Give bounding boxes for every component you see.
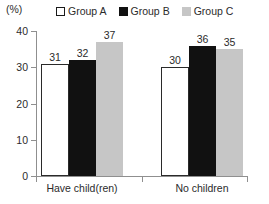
plot-area: 40 30 20 10 0 31 32 37 Have child(ren) 3… bbox=[0, 0, 269, 204]
y-tick-label-30: 30 bbox=[2, 62, 28, 73]
y-tick-label-20: 20 bbox=[2, 99, 28, 110]
bar-group1-series-c[interactable] bbox=[96, 42, 123, 176]
bar-group2-series-b[interactable] bbox=[189, 46, 216, 176]
y-tick-10 bbox=[31, 140, 36, 141]
bar-value-group1-series-a: 31 bbox=[41, 52, 69, 63]
bar-group1-series-a[interactable] bbox=[41, 64, 69, 176]
bar-group2-series-a[interactable] bbox=[161, 67, 189, 176]
x-axis-group-label-2: No children bbox=[157, 183, 247, 194]
bar-value-group2-series-a: 30 bbox=[161, 55, 189, 66]
y-tick-label-40: 40 bbox=[2, 26, 28, 37]
bar-value-group2-series-c: 35 bbox=[216, 37, 243, 48]
y-tick-label-10: 10 bbox=[2, 135, 28, 146]
bar-value-group1-series-c: 37 bbox=[96, 30, 123, 41]
y-tick-20 bbox=[31, 104, 36, 105]
y-tick-30 bbox=[31, 67, 36, 68]
clipped-caption-sliver bbox=[6, 199, 156, 204]
bar-group2-series-c[interactable] bbox=[216, 49, 243, 176]
bar-value-group1-series-b: 32 bbox=[69, 48, 96, 59]
bar-value-group2-series-b: 36 bbox=[189, 34, 216, 45]
y-axis-line bbox=[36, 31, 37, 177]
x-tick-group-separator bbox=[142, 177, 143, 182]
y-tick-label-0: 0 bbox=[2, 171, 28, 182]
bar-group1-series-b[interactable] bbox=[69, 60, 96, 176]
x-tick-right-end bbox=[247, 177, 248, 182]
bar-chart-figure: (%) Group A Group B Group C 40 30 20 10 … bbox=[0, 0, 269, 204]
x-tick-left-end bbox=[36, 177, 37, 182]
y-tick-40 bbox=[31, 31, 36, 32]
x-axis-group-label-1: Have child(ren) bbox=[37, 183, 127, 194]
